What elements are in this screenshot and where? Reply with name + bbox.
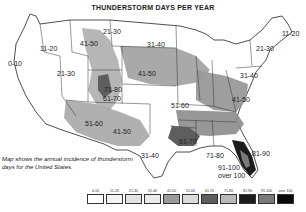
map-label-montana-west: 41-50 bbox=[80, 40, 98, 47]
legend-swatch bbox=[144, 194, 161, 204]
map-label-virginia: 41-50 bbox=[232, 96, 250, 103]
legend-item: 31-40 bbox=[143, 188, 162, 204]
map-label-new-mexico: 41-50 bbox=[113, 128, 131, 135]
legend-item: 71-80 bbox=[219, 188, 238, 204]
map-label-south-florida: over 100 bbox=[218, 172, 245, 179]
legend-swatch bbox=[201, 194, 218, 204]
map-label-colorado-rockies: 71-80 bbox=[104, 86, 122, 93]
us-map bbox=[0, 0, 306, 212]
map-label-louisiana: 61-70 bbox=[179, 138, 197, 145]
legend-item: over 100 bbox=[276, 188, 295, 204]
legend-item: 0-10 bbox=[86, 188, 105, 204]
legend-item: 91-100 bbox=[257, 188, 276, 204]
legend-swatch bbox=[163, 194, 180, 204]
map-label-pacific-coast: 0-10 bbox=[8, 60, 22, 67]
map-label-central-florida: 91-100 bbox=[218, 164, 240, 171]
legend-swatch bbox=[106, 194, 123, 204]
map-label-dakotas: 31-40 bbox=[147, 41, 165, 48]
map-label-pacific-northwest: 11-20 bbox=[40, 45, 57, 52]
legend-swatch bbox=[258, 194, 275, 204]
map-caption: Map shows the annual incidence of thunde… bbox=[2, 155, 142, 171]
map-label-gulf-coast: 71-80 bbox=[206, 152, 224, 159]
map-label-maine: 11-20 bbox=[282, 30, 299, 37]
legend: 0-1011-2021-3031-4041-5051-6061-7071-808… bbox=[86, 188, 295, 204]
legend-item: 21-30 bbox=[124, 188, 143, 204]
map-label-montana-east: 21-30 bbox=[103, 28, 121, 35]
legend-swatch bbox=[239, 194, 256, 204]
legend-item: 61-70 bbox=[200, 188, 219, 204]
legend-swatch bbox=[182, 194, 199, 204]
legend-item: 41-50 bbox=[162, 188, 181, 204]
map-label-west-texas: 31-40 bbox=[141, 152, 159, 159]
map-label-pennsylvania: 31-40 bbox=[240, 72, 258, 79]
legend-swatch bbox=[277, 194, 294, 204]
map-label-kansas-missouri: 51-60 bbox=[171, 102, 189, 109]
map-label-north-florida: 81-90 bbox=[252, 150, 270, 157]
legend-swatch bbox=[87, 194, 104, 204]
map-label-colorado-south: 61-70 bbox=[103, 95, 121, 102]
map-label-arizona: 51-60 bbox=[85, 120, 103, 127]
map-label-nebraska: 41-50 bbox=[138, 70, 156, 77]
map-label-new-york: 21-30 bbox=[256, 45, 274, 52]
legend-item: 51-60 bbox=[181, 188, 200, 204]
legend-swatch bbox=[125, 194, 142, 204]
legend-item: 81-90 bbox=[238, 188, 257, 204]
map-label-great-basin: 21-30 bbox=[57, 70, 75, 77]
legend-item: 11-20 bbox=[105, 188, 124, 204]
legend-swatch bbox=[220, 194, 237, 204]
